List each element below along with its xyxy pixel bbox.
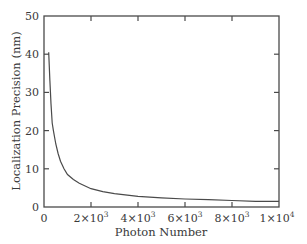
x-tick-label: 6×103 — [168, 210, 203, 225]
x-tick-label: 2×103 — [74, 210, 109, 225]
y-tick-label: 10 — [25, 163, 39, 176]
plot-frame — [44, 16, 279, 207]
y-tick-label: 50 — [25, 10, 39, 23]
y-axis-title: Localization Precision (nm) — [9, 31, 23, 190]
x-tick-label: 4×103 — [121, 210, 156, 225]
y-axis-ticks: 01020304050 — [25, 10, 279, 214]
line-chart: 01020304050 02×1034×1036×1038×1031×104 P… — [0, 0, 307, 244]
x-tick-label: 0 — [41, 212, 48, 225]
x-axis-title: Photon Number — [115, 225, 208, 239]
x-tick-label: 1×104 — [260, 210, 295, 225]
x-axis-ticks: 02×1034×1036×1038×1031×104 — [41, 16, 295, 225]
y-tick-label: 20 — [25, 125, 39, 138]
y-tick-label: 30 — [25, 86, 39, 99]
precision-curve — [49, 52, 279, 201]
y-tick-label: 40 — [25, 48, 39, 61]
plot-border — [44, 16, 279, 207]
y-tick-label: 0 — [32, 201, 39, 214]
x-tick-label: 8×103 — [215, 210, 250, 225]
